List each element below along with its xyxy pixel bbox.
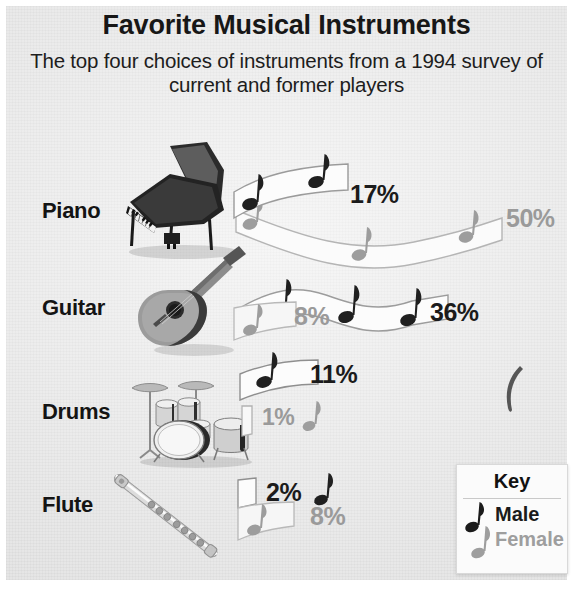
- drums-value-male: 11%: [310, 360, 357, 389]
- piano-bar-male: [232, 162, 354, 228]
- row-label-flute: Flute: [42, 492, 93, 518]
- key-legend: Key Male Female: [456, 464, 568, 574]
- grand-piano-icon: [112, 140, 252, 262]
- guitar-value-female: 8%: [294, 302, 329, 331]
- stray-ink-mark: [498, 364, 532, 416]
- acoustic-guitar-icon: [126, 252, 246, 360]
- guitar-value-male: 36%: [430, 298, 479, 327]
- key-male-label: Male: [495, 503, 539, 526]
- drums-value-female: 1%: [262, 404, 294, 431]
- page-title: Favorite Musical Instruments: [0, 10, 573, 41]
- row-label-drums: Drums: [42, 399, 110, 425]
- flute-bar-female: [236, 500, 308, 550]
- piano-value-female: 50%: [506, 204, 555, 233]
- key-divider: [463, 498, 561, 499]
- key-female-label: Female: [495, 528, 564, 551]
- row-label-guitar: Guitar: [42, 295, 105, 321]
- drums-female-note-icon: [302, 398, 328, 434]
- flute-icon: [108, 468, 232, 564]
- key-heading: Key: [457, 470, 567, 493]
- page-subtitle: The top four choices of instruments from…: [30, 49, 543, 97]
- piano-value-male: 17%: [350, 180, 399, 209]
- infographic-page: Favorite Musical Instruments The top fou…: [0, 0, 573, 600]
- row-label-piano: Piano: [42, 198, 100, 224]
- flute-value-female: 8%: [310, 502, 345, 531]
